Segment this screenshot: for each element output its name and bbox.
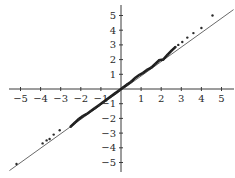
- data-point: [53, 133, 55, 135]
- data-point: [134, 77, 136, 79]
- data-point: [78, 118, 80, 120]
- data-point: [142, 72, 144, 74]
- data-point: [70, 125, 72, 127]
- data-point: [138, 74, 140, 76]
- x-tick-label: 4: [198, 93, 204, 104]
- data-point: [174, 46, 176, 48]
- data-point: [82, 115, 84, 117]
- x-tick-label: −4: [33, 93, 48, 104]
- x-tick-label: −5: [13, 93, 28, 104]
- qq-plot-chart: −5−4−3−2−112345 54321−1−2−3−4−5: [0, 0, 235, 178]
- data-point: [150, 67, 152, 69]
- x-tick-label: 5: [218, 93, 224, 104]
- y-tick-label: −4: [101, 142, 116, 153]
- data-point: [86, 113, 88, 115]
- data-point: [146, 69, 148, 71]
- data-point: [192, 32, 194, 34]
- data-point: [162, 59, 164, 61]
- x-tick-label: 3: [178, 93, 184, 104]
- data-point: [186, 36, 188, 38]
- data-point: [166, 54, 168, 56]
- data-point: [45, 139, 47, 141]
- data-point: [177, 44, 179, 46]
- y-tick-label: 4: [110, 25, 116, 36]
- y-tick-label: 1: [110, 69, 116, 80]
- x-tick-label: 2: [158, 93, 164, 104]
- data-point: [181, 41, 183, 43]
- data-point: [154, 63, 156, 65]
- data-point: [15, 163, 17, 165]
- data-point: [110, 95, 112, 97]
- y-tick-label: −5: [101, 157, 116, 168]
- x-tick-label: −2: [73, 93, 88, 104]
- data-point: [170, 50, 172, 52]
- data-point: [114, 92, 116, 94]
- data-point: [158, 59, 160, 61]
- data-point: [118, 89, 120, 91]
- data-point: [98, 104, 100, 106]
- y-tick-label: 5: [110, 10, 116, 21]
- data-point: [48, 138, 50, 140]
- x-tick-label: −3: [53, 93, 68, 104]
- data-point: [200, 27, 202, 29]
- data-point: [74, 122, 76, 124]
- y-tick-label: −3: [101, 128, 116, 139]
- data-point: [59, 129, 61, 131]
- data-point: [102, 101, 104, 103]
- data-point: [126, 84, 128, 86]
- data-point: [90, 110, 92, 112]
- x-tick-label: 1: [138, 93, 144, 104]
- data-point: [41, 142, 43, 144]
- data-point: [211, 14, 213, 16]
- data-point: [106, 98, 108, 100]
- data-point: [94, 107, 96, 109]
- y-tick-label: 2: [110, 54, 116, 65]
- data-point: [130, 81, 132, 83]
- data-point: [122, 86, 124, 88]
- y-tick-label: 3: [110, 39, 116, 50]
- y-tick-label: −2: [101, 113, 116, 124]
